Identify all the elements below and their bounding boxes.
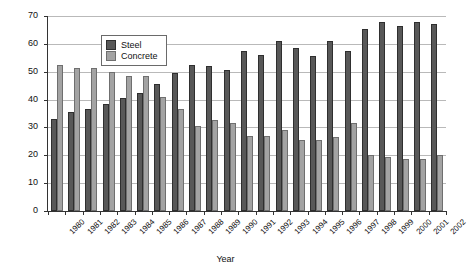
bar-concrete-1990 [230,123,236,211]
bar-group [83,16,100,211]
bar-concrete-1987 [178,109,184,211]
x-axis-tick-label: 1980 [69,218,87,236]
chart-legend: Steel Concrete [101,35,167,66]
y-axis-tick-label: 40 [0,95,38,104]
x-axis-tick-label: 1983 [121,218,139,236]
x-axis-tick-label: 2002 [449,218,467,236]
legend-label-steel: Steel [121,41,142,50]
bar-group [204,16,221,211]
bar-concrete-2001 [420,159,426,211]
x-axis-tick-label: 1988 [207,218,225,236]
bar-concrete-2002 [437,155,443,211]
x-axis-tick-label: 1981 [86,218,104,236]
x-axis-tick-label: 1993 [294,218,312,236]
x-axis-tick-label: 1999 [397,218,415,236]
bar-group [221,16,238,211]
x-axis-tick-label: 1984 [138,218,156,236]
bar-group [290,16,307,211]
bar-concrete-1992 [264,136,270,211]
bar-concrete-1984 [126,76,132,211]
x-axis-tick [446,211,447,215]
bar-concrete-1985 [143,76,149,211]
bar-concrete-2000 [403,159,409,211]
x-axis-tick-label: 1990 [242,218,260,236]
x-axis-tick-label: 1982 [103,218,121,236]
x-axis-tick-label: 1989 [224,218,242,236]
bar-concrete-1994 [299,140,305,211]
x-axis-tick-label: 1985 [155,218,173,236]
x-axis-tick-label: 1986 [172,218,190,236]
bar-group [186,16,203,211]
bar-group [307,16,324,211]
bar-concrete-1995 [316,140,322,211]
bar-concrete-1999 [385,157,391,211]
y-axis-tick-label: 10 [0,178,38,187]
bar-concrete-1997 [351,123,357,211]
x-axis-tick-labels: 1980198119821983198419851986198719881989… [47,214,445,256]
bar-group [169,16,186,211]
x-axis-title: Year [0,254,451,264]
bar-concrete-1989 [212,120,218,211]
plot-area: Steel Concrete [47,16,445,212]
x-axis-tick-label: 1992 [276,218,294,236]
bar-concrete-1998 [368,155,374,211]
x-axis-tick-label: 1994 [311,218,329,236]
bar-concrete-1983 [109,72,115,211]
x-axis-tick-label: 2001 [432,218,450,236]
bar-group [429,16,446,211]
bar-group [411,16,428,211]
y-axis-tick-label: 20 [0,150,38,159]
x-axis-tick-label: 1995 [328,218,346,236]
legend-item-concrete: Concrete [106,51,158,61]
x-axis-tick-label: 1996 [346,218,364,236]
bar-concrete-1991 [247,136,253,211]
x-axis-tick-label: 1991 [259,218,277,236]
y-axis-tick-label: 70 [0,11,38,20]
y-axis-tick-label: 0 [0,206,38,215]
bar-concrete-1980 [57,65,63,211]
bar-concrete-1988 [195,126,201,211]
legend-item-steel: Steel [106,40,158,50]
bar-group [359,16,376,211]
x-axis-tick-label: 1998 [380,218,398,236]
bar-concrete-1986 [160,97,166,211]
bar-group [325,16,342,211]
bar-group [256,16,273,211]
bar-concrete-1996 [333,137,339,211]
bar-concrete-1981 [74,68,80,211]
gridline [48,211,446,212]
legend-label-concrete: Concrete [121,52,158,61]
x-axis-tick-label: 2000 [415,218,433,236]
bar-group [377,16,394,211]
legend-swatch-concrete [106,51,116,61]
bar-concrete-1982 [91,68,97,211]
x-axis-tick-label: 1987 [190,218,208,236]
bar-group [342,16,359,211]
y-axis-tick-label: 60 [0,39,38,48]
bar-group [238,16,255,211]
legend-swatch-steel [106,40,116,50]
y-axis-tick-label: 50 [0,67,38,76]
bar-group [273,16,290,211]
bar-group [65,16,82,211]
bar-group [48,16,65,211]
x-axis-tick-label: 1997 [363,218,381,236]
y-axis-tick-label: 30 [0,122,38,131]
bar-concrete-1993 [282,130,288,211]
bar-group [394,16,411,211]
